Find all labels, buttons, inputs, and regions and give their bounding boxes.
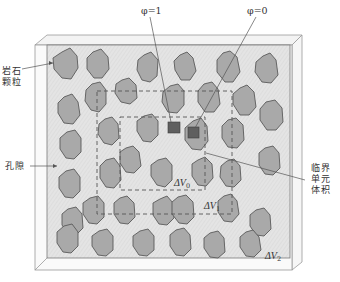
phi-one-marker [168, 122, 180, 133]
dv2-label: ΔV2 [265, 250, 281, 265]
phi-zero-label: φ=0 [247, 5, 268, 16]
rev-label-line2: 单元 [311, 174, 331, 185]
dv1-label: ΔV1 [204, 200, 220, 215]
rock-grain-label: 岩石 颗粒 [2, 66, 22, 88]
phi-zero-marker [188, 127, 199, 138]
rev-diagram: φ=1 φ=0 岩石 颗粒 孔隙 临界 单元 体积 ΔV0 ΔV1 ΔV2 [0, 0, 340, 282]
grain [222, 118, 244, 148]
plate-side-face [292, 35, 302, 270]
rev-label-line1: 临界 [311, 163, 331, 174]
rock-grain-label-line1: 岩石 [2, 66, 22, 77]
diagram-canvas [0, 0, 340, 282]
dv0-label: ΔV0 [174, 177, 190, 192]
pore-label: 孔隙 [5, 161, 25, 172]
rev-label: 临界 单元 体积 [311, 163, 331, 196]
phi-one-label: φ=1 [141, 5, 162, 16]
plate-top-face [35, 35, 302, 45]
grain [100, 158, 121, 188]
rev-label-line3: 体积 [311, 185, 331, 196]
rock-grain-label-line2: 颗粒 [2, 77, 22, 88]
